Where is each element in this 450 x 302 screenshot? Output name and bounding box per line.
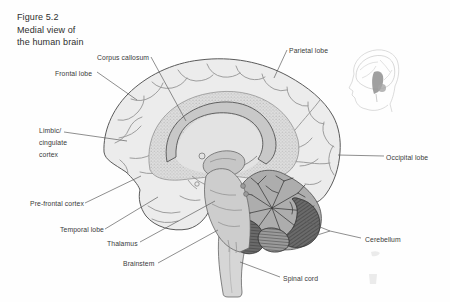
label-limbic-line: cortex <box>39 149 67 161</box>
figure-canvas: Figure 5.2 Medial view of the human brai… <box>0 0 450 302</box>
label-limbic-cingulate-cortex: Limbic/ cingulate cortex <box>39 125 67 161</box>
label-limbic-line: cingulate <box>39 137 67 149</box>
figure-title-line: Figure 5.2 <box>17 11 84 24</box>
orientation-head-icon <box>349 50 399 112</box>
leader-spinal-cord <box>240 262 280 277</box>
leader-brainstem <box>158 230 218 263</box>
label-corpus-callosum: Corpus callosum <box>97 52 149 64</box>
print-artifacts <box>369 251 380 284</box>
label-parietal-lobe: Parietal lobe <box>289 45 328 57</box>
figure-title-line: Medial view of <box>17 24 84 37</box>
leader-occipital-lobe <box>338 155 384 156</box>
leader-frontal-lobe <box>97 72 137 100</box>
label-cerebellum: Cerebellum <box>365 234 401 246</box>
label-brainstem: Brainstem <box>123 258 155 270</box>
figure-title: Figure 5.2 Medial view of the human brai… <box>17 11 84 49</box>
leader-prefrontal-cortex <box>85 176 141 203</box>
label-temporal-lobe: Temporal lobe <box>60 224 104 236</box>
figure-title-line: the human brain <box>17 36 84 49</box>
label-thalamus: Thalamus <box>107 238 138 250</box>
label-frontal-lobe: Frontal lobe <box>55 68 92 80</box>
label-occipital-lobe: Occipital lobe <box>386 152 428 164</box>
label-prefrontal-cortex: Pre-frontal cortex <box>30 198 84 210</box>
label-limbic-line: Limbic/ <box>39 125 67 137</box>
label-spinal-cord: Spinal cord <box>283 273 318 285</box>
